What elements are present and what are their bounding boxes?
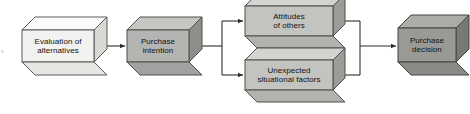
node-bottom-face — [245, 90, 345, 102]
node-top-face — [245, 48, 345, 60]
node-attitudes-of-others[interactable] — [245, 0, 345, 48]
node-side-face — [333, 0, 345, 36]
node-bottom-face — [398, 62, 469, 75]
node-front-face — [22, 30, 94, 62]
node-front-face — [398, 28, 456, 62]
node-front-face — [127, 30, 189, 62]
node-evaluation-of-alternatives[interactable] — [22, 17, 107, 75]
node-purchase-decision[interactable] — [398, 15, 469, 75]
node-top-face — [22, 17, 107, 30]
node-bottom-face — [22, 62, 107, 75]
diagram-canvas: s — [0, 0, 470, 114]
node-unexpected-situational-factors[interactable] — [245, 48, 345, 102]
node-top-face — [245, 0, 345, 6]
node-front-face — [245, 6, 333, 36]
node-front-face — [245, 60, 333, 90]
node-purchase-intention[interactable] — [127, 17, 202, 75]
node-bottom-face — [127, 62, 202, 75]
flow-diagram-graphics — [0, 0, 470, 114]
node-bottom-face — [245, 36, 345, 48]
